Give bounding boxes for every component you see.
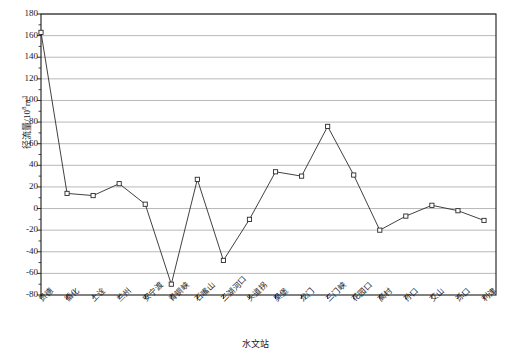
x-axis-tick-label: 三湖河口: [220, 275, 248, 303]
x-axis-tick-label: 孙口: [403, 287, 420, 304]
x-axis-tick-label: 利津: [481, 287, 498, 304]
x-axis-tick-label: 吴堡: [273, 287, 290, 304]
x-axis-tick-label: 石嘴山: [194, 281, 217, 304]
x-axis-tick-label: 兰州: [116, 287, 133, 304]
x-axis-tick-label: 泺口: [455, 287, 472, 304]
x-axis-tick-label: 安宁渡: [142, 281, 165, 304]
x-axis-tick-label: 上诠: [90, 287, 107, 304]
x-axis-tick-label: 青铜峡: [168, 281, 191, 304]
x-axis-tick-labels: 贵德循化上诠兰州安宁渡青铜峡石嘴山三湖河口头道拐吴堡龙门三门峡花园口高村孙口艾山…: [0, 0, 511, 360]
runoff-line-chart: 径流量/108m3 -80-60-40-20020406080100120140…: [0, 0, 511, 360]
x-axis-tick-label: 三门峡: [325, 281, 348, 304]
x-axis-title: 水文站: [0, 337, 511, 350]
x-axis-tick-label: 贵德: [38, 287, 55, 304]
x-axis-tick-label: 艾山: [429, 287, 446, 304]
x-axis-tick-label: 头道拐: [246, 281, 269, 304]
x-axis-tick-label: 循化: [64, 287, 81, 304]
x-axis-tick-label: 高村: [377, 287, 394, 304]
x-axis-tick-label: 龙门: [299, 287, 316, 304]
x-axis-tick-label: 花园口: [351, 281, 374, 304]
x-axis-title-text: 水文站: [242, 339, 269, 349]
